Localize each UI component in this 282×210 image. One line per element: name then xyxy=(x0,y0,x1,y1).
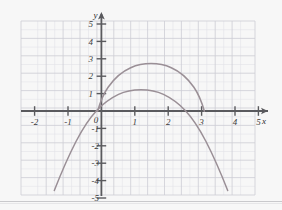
x-tick-label: -1 xyxy=(64,117,72,127)
x-tick-label: -2 xyxy=(31,117,39,127)
y-tick-label: -2 xyxy=(92,141,100,151)
x-tick-label: 2 xyxy=(166,117,171,127)
y-tick-label: 1 xyxy=(89,89,94,99)
x-tick-label: 1 xyxy=(133,117,138,127)
y-tick-label: 4 xyxy=(89,37,94,47)
y-tick-label: 3 xyxy=(88,54,94,64)
figure-background xyxy=(0,0,282,210)
bottom-divider-shadow xyxy=(0,203,282,204)
y-tick-label: -1 xyxy=(92,124,100,134)
y-tick-label: 2 xyxy=(89,71,94,81)
y-tick-label: -3 xyxy=(92,158,100,168)
x-tick-label: 5 xyxy=(256,117,261,127)
x-tick-label: 3 xyxy=(198,117,204,127)
y-tick-label: 5 xyxy=(89,19,94,29)
x-tick-label: 4 xyxy=(233,117,238,127)
y-tick-label: -4 xyxy=(92,176,100,186)
bottom-divider xyxy=(0,201,282,202)
x-axis-label: x xyxy=(261,116,266,126)
coordinate-plane: -2 -1 0 1 2 3 4 5 5 4 3 2 1 -1 -2 -3 -4 … xyxy=(0,0,282,210)
graph-figure: -2 -1 0 1 2 3 4 5 5 4 3 2 1 -1 -2 -3 -4 … xyxy=(0,0,282,210)
y-axis-label: y xyxy=(93,10,98,20)
